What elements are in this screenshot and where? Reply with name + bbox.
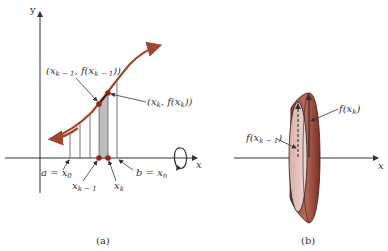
x-axis-label-b: x [378,160,384,171]
point-xk [105,90,111,96]
y-axis-label: y [29,4,36,15]
surface-of-revolution-figure: y x (xk − 1, f(xk − 1)) (xk, f(xk)) [0,0,388,251]
leader-xk-1 [83,161,97,181]
panel-b: x f(xk) f(xk − 1) (b) [234,93,384,246]
leader-xk [109,161,116,181]
leader-b [119,160,133,170]
label-f-xk-1: f(xk − 1) [245,132,282,145]
x-axis-label: x [196,159,202,170]
label-right-point: (xk, f(xk)) [147,96,193,109]
label-xk: xk [114,180,124,193]
axis-point-xk [105,155,111,161]
caption-b: (b) [301,235,315,246]
label-left-point: (xk − 1, f(xk − 1)) [46,65,121,78]
axis-point-xk-1 [96,155,102,161]
point-xk-1 [96,101,102,107]
label-xk-1: xk − 1 [72,180,97,193]
label-a: a = x0 [41,167,72,180]
caption-a: (a) [96,235,110,246]
label-f-xk: f(xk) [338,103,361,116]
panel-a: y x (xk − 1, f(xk − 1)) (xk, f(xk)) [5,4,202,246]
label-b: b = xn [136,167,168,180]
rotation-arrow-icon [174,148,186,171]
leader-left-point [76,78,97,101]
leader-right-point [111,94,146,102]
